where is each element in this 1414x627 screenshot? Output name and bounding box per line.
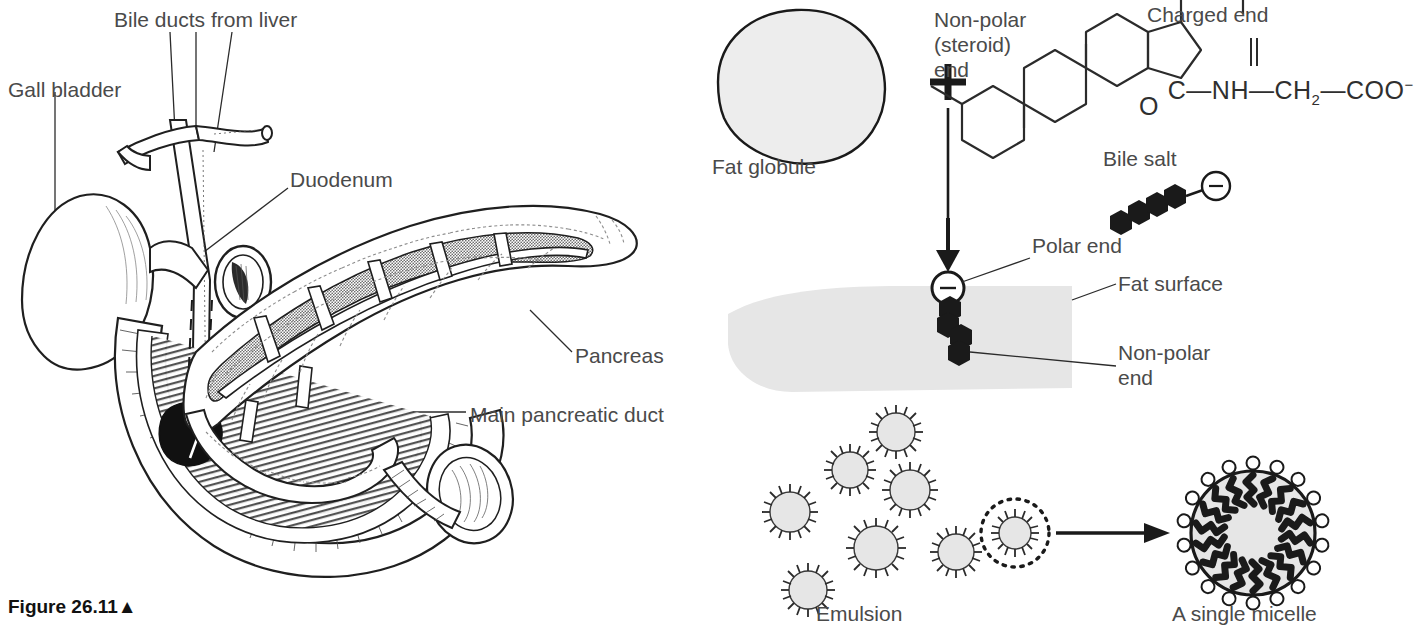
formula-negative-charge: − (1404, 76, 1413, 93)
droplet (869, 405, 923, 459)
label-single-micelle: A single micelle (1172, 602, 1317, 627)
bile-salt-symbol (1110, 172, 1230, 235)
emulsion-droplets (762, 405, 982, 617)
label-charged-end: Charged end (1147, 3, 1268, 28)
droplet (846, 518, 906, 578)
label-fat-surface: Fat surface (1118, 272, 1223, 297)
micelle-formation-arrow (1056, 523, 1170, 543)
droplet (882, 462, 938, 518)
figure-caption: Figure 26.11▲ (8, 596, 137, 618)
single-micelle (1176, 457, 1329, 610)
label-emulsion: Emulsion (816, 602, 902, 627)
label-polar-end: Polar end (1032, 234, 1122, 259)
formula-chain-text: —NH—CH (1186, 76, 1311, 104)
fat-surface (728, 286, 1072, 392)
label-bile-salt: Bile salt (1103, 147, 1177, 172)
label-gall-bladder: Gall bladder (8, 78, 121, 103)
droplet (824, 444, 876, 496)
plus-sign-group (930, 64, 966, 218)
label-non-polar-end: Non-polar end (1118, 341, 1210, 391)
formula-carboxyl: —COO (1320, 76, 1404, 104)
label-non-polar-steroid-end: Non-polar (steroid) end (934, 8, 1026, 82)
label-bile-ducts-from-liver: Bile ducts from liver (114, 8, 297, 33)
droplet (930, 526, 982, 578)
formula-carbon: C (1168, 76, 1187, 104)
label-pancreas: Pancreas (575, 344, 664, 369)
highlighted-droplet (981, 499, 1049, 567)
label-duodenum: Duodenum (290, 168, 393, 193)
label-main-pancreatic-duct: Main pancreatic duct (470, 403, 664, 428)
fat-globule (718, 10, 885, 164)
droplet (762, 484, 818, 540)
duct-opening (262, 126, 272, 140)
formula-carbonyl-oxygen: O (1139, 92, 1159, 121)
label-fat-globule: Fat globule (712, 155, 816, 180)
formula-amide-chain: C—NH—CH2—COO− (1138, 47, 1414, 137)
reaction-arrow-down (936, 218, 960, 272)
